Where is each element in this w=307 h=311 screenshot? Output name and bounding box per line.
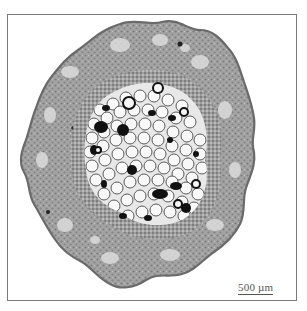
scale-bar-label: 500 µm <box>238 282 273 295</box>
stem-cross-section-image <box>0 0 307 311</box>
